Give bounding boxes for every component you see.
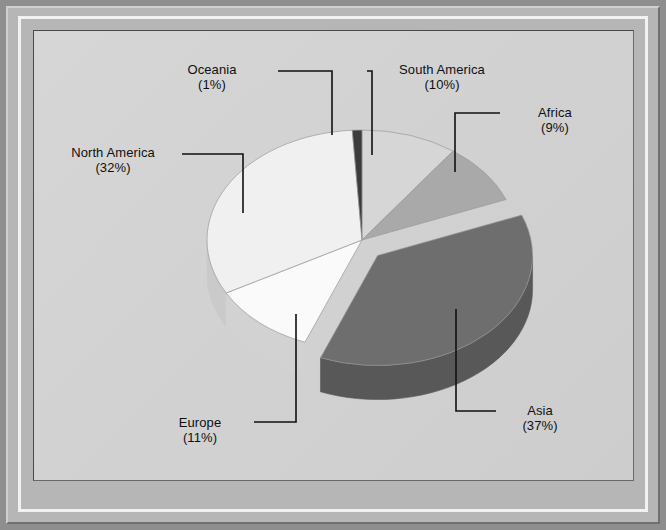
label-africa-pct: (9%) [505,120,605,135]
label-north-america-pct: (32%) [48,160,178,175]
chart-window: Oceania (1%) South America (10%) Africa … [0,0,666,530]
label-oceania-pct: (1%) [152,77,272,92]
label-africa: Africa (9%) [505,105,605,135]
label-africa-name: Africa [538,105,572,120]
label-north-america-name: North America [71,145,155,160]
label-europe-pct: (11%) [150,430,250,445]
label-oceania: Oceania (1%) [152,62,272,92]
label-asia: Asia (37%) [500,403,580,433]
label-south-america-pct: (10%) [372,77,512,92]
label-europe: Europe (11%) [150,415,250,445]
label-oceania-name: Oceania [187,62,236,77]
label-south-america: South America (10%) [372,62,512,92]
pie-chart [0,0,666,530]
label-asia-pct: (37%) [500,418,580,433]
label-north-america: North America (32%) [48,145,178,175]
label-europe-name: Europe [179,415,222,430]
label-south-america-name: South America [399,62,485,77]
leader-oceania [278,71,332,135]
label-asia-name: Asia [527,403,553,418]
